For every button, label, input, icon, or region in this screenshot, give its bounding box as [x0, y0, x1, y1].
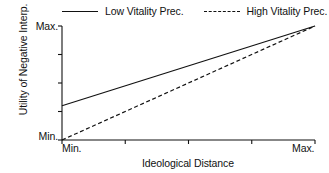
x-axis-ticks — [62, 140, 315, 144]
chart-figure: Low Vitality Prec. High Vitality Prec. U… — [0, 0, 329, 173]
data-line-high-vitality-prec — [62, 26, 315, 140]
plot-area — [0, 0, 329, 173]
data-line-low-vitality-prec — [62, 26, 315, 106]
data-series-group — [62, 26, 315, 140]
y-axis-ticks — [58, 26, 62, 140]
